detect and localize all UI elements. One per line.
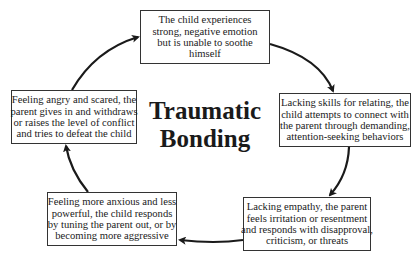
node-text-line: criticism, or threats <box>241 235 373 246</box>
cycle-node-right: Lacking skills for relating, the child a… <box>279 93 411 147</box>
node-text-line: the parent through demanding, <box>280 120 410 131</box>
cycle-node-top: The child experiences strong, negative e… <box>140 10 270 64</box>
node-text-line: and responds with disapproval, <box>241 224 373 235</box>
node-text-line: powerful, the child responds <box>48 208 177 219</box>
node-text-line: but is unable to soothe <box>152 37 257 48</box>
cycle-node-bottom-left: Feeling more anxious and less powerful, … <box>47 192 177 246</box>
node-text-line: feels irritation or resentment <box>241 213 373 224</box>
node-text-line: himself <box>152 48 257 59</box>
node-text-line: strong, negative emotion <box>152 26 257 37</box>
node-text-line: Lacking empathy, the parent <box>241 201 373 212</box>
arrow-bottom-right-to-bottom-left <box>180 240 243 242</box>
arrow-top-to-right <box>270 44 333 91</box>
arrow-left-to-top <box>72 37 138 90</box>
node-text-line: child attempts to connect with <box>280 109 410 120</box>
arrow-bottom-left-to-left <box>66 146 88 192</box>
node-text-line: becoming more aggressive <box>48 230 177 241</box>
title-line: Traumatic <box>112 97 298 125</box>
node-text-line: Feeling more anxious and less <box>48 196 177 207</box>
diagram-title: Traumatic Bonding <box>112 97 298 153</box>
node-text-line: The child experiences <box>152 14 257 25</box>
title-line: Bonding <box>112 125 298 153</box>
node-text-line: by tuning the parent out, or by <box>48 219 177 230</box>
node-text-line: Lacking skills for relating, the <box>280 97 410 108</box>
cycle-node-bottom-right: Lacking empathy, the parent feels irrita… <box>243 197 371 251</box>
arrow-right-to-bottom-right <box>330 147 349 195</box>
node-text-line: attention-seeking behaviors <box>280 131 410 142</box>
